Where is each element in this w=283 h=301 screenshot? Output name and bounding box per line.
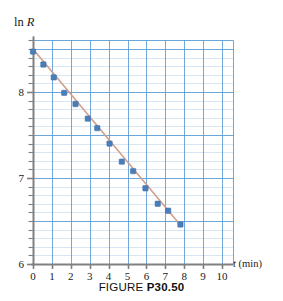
data-point xyxy=(85,116,90,121)
figure-caption-id: P30.50 xyxy=(147,281,185,293)
y-tick-label: 6 xyxy=(10,259,24,270)
y-tick-label: 8 xyxy=(10,87,24,98)
data-point xyxy=(51,75,56,80)
data-point xyxy=(95,125,100,130)
figure-container: ln R t (min) 678012345678910 FIGURE P30.… xyxy=(0,0,283,301)
data-point xyxy=(107,141,112,146)
figure-caption: FIGURE P30.50 xyxy=(0,281,283,293)
y-axis-label-variable: R xyxy=(27,15,35,29)
y-axis-label-prefix: ln xyxy=(14,15,27,29)
data-point xyxy=(155,201,160,206)
figure-caption-word: FIGURE xyxy=(99,281,144,293)
data-point xyxy=(30,49,35,54)
data-point xyxy=(119,159,124,164)
data-point xyxy=(130,168,135,173)
data-point xyxy=(165,208,170,213)
y-axis-label: ln R xyxy=(14,16,35,29)
data-point xyxy=(143,186,148,191)
data-point xyxy=(73,101,78,106)
x-axis-label: t (min) xyxy=(233,259,262,270)
plot-area xyxy=(0,0,283,301)
y-tick-label: 7 xyxy=(10,173,24,184)
data-point xyxy=(41,62,46,67)
data-point xyxy=(61,90,66,95)
data-point xyxy=(178,222,183,227)
x-axis-label-units: (min) xyxy=(236,258,262,269)
